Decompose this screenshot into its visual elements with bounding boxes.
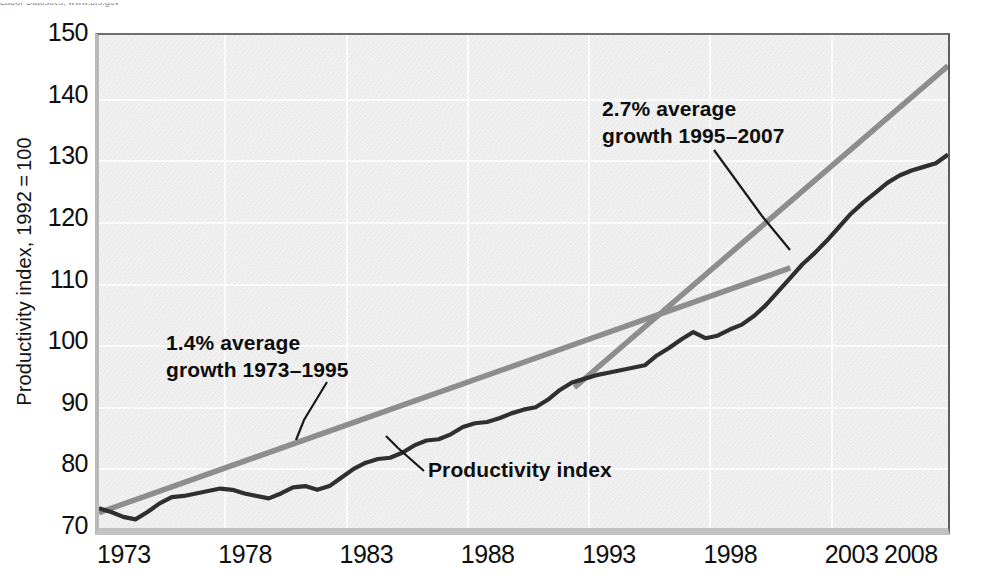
annotation-series-label: Productivity index [428, 457, 612, 484]
annotation-late-growth: 2.7% average growth 1995–2007 [602, 96, 785, 150]
annotation-leader-lines [0, 0, 981, 582]
leader-line-late-growth [714, 150, 790, 250]
annotation-early-growth: 1.4% average growth 1973–1995 [166, 330, 349, 384]
leader-line-early-growth [296, 382, 327, 440]
leader-line-series [386, 436, 424, 471]
